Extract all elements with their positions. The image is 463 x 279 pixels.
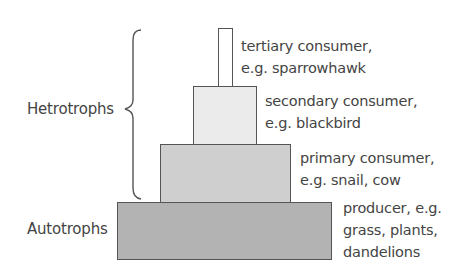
primary-label-line2: e.g. snail, cow [300,169,434,191]
producer-label-line1: producer, e.g. [343,197,442,219]
producer-label-line3: dandelions [343,241,442,263]
secondary-label-line1: secondary consumer, [265,90,417,112]
primary-consumer-label: primary consumer, e.g. snail, cow [300,147,434,191]
autotrophs-label: Autotrophs [27,219,108,239]
tertiary-label-line2: e.g. sparrowhawk [241,57,372,79]
primary-label-line1: primary consumer, [300,147,434,169]
producer-label-line2: grass, plants, [343,219,442,241]
secondary-consumer-label: secondary consumer, e.g. blackbird [265,90,417,134]
secondary-label-line2: e.g. blackbird [265,112,417,134]
tertiary-label-line1: tertiary consumer, [241,35,372,57]
tertiary-consumer-label: tertiary consumer, e.g. sparrowhawk [241,35,372,79]
producer-label: producer, e.g. grass, plants, dandelions [343,197,442,263]
heterotrophs-label: Hetrotrophs [27,99,114,119]
